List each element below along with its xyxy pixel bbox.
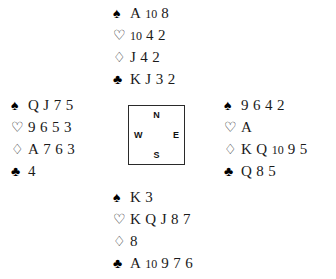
hand-north: ♠ A108 ♡ 1042 ♢ J42 ♣ KJ32 — [113, 2, 176, 90]
club-icon: ♣ — [11, 161, 28, 183]
north-clubs-ranks: KJ32 — [130, 68, 176, 90]
card-rank: 5 — [300, 141, 308, 157]
south-diamonds-ranks: 8 — [130, 230, 138, 252]
card-rank: A — [241, 119, 252, 135]
north-hearts-row: ♡ 1042 — [113, 24, 176, 46]
compass-box: N W E S — [128, 105, 185, 165]
east-spades-ranks: 9642 — [241, 94, 285, 116]
hand-south: ♠ K3 ♡ KQJ87 ♢ 8 ♣ A10976 — [113, 186, 193, 274]
card-rank: 10 — [130, 29, 142, 43]
east-spades-row: ♠ 9642 — [224, 94, 308, 116]
heart-icon: ♡ — [224, 117, 241, 139]
compass-east-label: E — [173, 130, 179, 140]
east-hearts-ranks: A — [241, 116, 252, 138]
spade-icon: ♠ — [113, 187, 130, 209]
card-rank: 2 — [152, 49, 160, 65]
south-spades-row: ♠ K3 — [113, 186, 193, 208]
east-diamonds-ranks: KQ1095 — [241, 138, 308, 161]
south-clubs-row: ♣ A10976 — [113, 252, 193, 274]
card-rank: J — [43, 97, 49, 113]
card-rank: J — [161, 211, 167, 227]
north-spades-ranks: A108 — [130, 2, 169, 25]
diamond-icon: ♢ — [113, 47, 130, 69]
card-rank: 5 — [52, 119, 60, 135]
card-rank: 8 — [256, 163, 264, 179]
south-diamonds-row: ♢ 8 — [113, 230, 193, 252]
west-spades-row: ♠ QJ75 — [11, 94, 75, 116]
south-hearts-ranks: KQJ87 — [130, 208, 191, 230]
west-hearts-row: ♡ 9653 — [11, 116, 75, 138]
card-rank: K — [130, 189, 141, 205]
card-rank: 6 — [55, 141, 63, 157]
card-rank: 3 — [64, 119, 72, 135]
west-clubs-row: ♣ 4 — [11, 160, 75, 182]
diamond-icon: ♢ — [11, 139, 28, 161]
west-diamonds-ranks: A763 — [28, 138, 75, 160]
hand-west: ♠ QJ75 ♡ 9653 ♢ A763 ♣ 4 — [11, 94, 75, 182]
card-rank: 3 — [67, 141, 75, 157]
north-clubs-row: ♣ KJ32 — [113, 68, 176, 90]
card-rank: 9 — [161, 255, 169, 271]
card-rank: 7 — [173, 255, 181, 271]
south-hearts-row: ♡ KQJ87 — [113, 208, 193, 230]
card-rank: 7 — [54, 97, 62, 113]
card-rank: 7 — [43, 141, 51, 157]
card-rank: Q — [145, 211, 156, 227]
card-rank: Q — [28, 97, 39, 113]
west-hearts-ranks: 9653 — [28, 116, 72, 138]
card-rank: A — [130, 5, 141, 21]
card-rank: Q — [256, 141, 267, 157]
card-rank: 4 — [28, 163, 36, 179]
card-rank: 2 — [158, 27, 166, 43]
spade-icon: ♠ — [113, 3, 130, 25]
heart-icon: ♡ — [113, 209, 130, 231]
card-rank: 4 — [140, 49, 148, 65]
card-rank: 5 — [66, 97, 74, 113]
north-diamonds-row: ♢ J42 — [113, 46, 176, 68]
card-rank: 2 — [277, 97, 285, 113]
spade-icon: ♠ — [224, 95, 241, 117]
card-rank: K — [130, 71, 141, 87]
south-clubs-ranks: A10976 — [130, 252, 193, 275]
card-rank: A — [28, 141, 39, 157]
card-rank: 9 — [288, 141, 296, 157]
card-rank: 10 — [145, 257, 157, 271]
west-spades-ranks: QJ75 — [28, 94, 74, 116]
card-rank: 8 — [130, 233, 138, 249]
card-rank: 9 — [28, 119, 36, 135]
card-rank: 8 — [161, 5, 169, 21]
club-icon: ♣ — [113, 69, 130, 91]
east-hearts-row: ♡ A — [224, 116, 308, 138]
card-rank: 3 — [145, 189, 153, 205]
club-icon: ♣ — [224, 161, 241, 183]
card-rank: Q — [241, 163, 252, 179]
card-rank: 6 — [253, 97, 261, 113]
card-rank: 3 — [156, 71, 164, 87]
heart-icon: ♡ — [11, 117, 28, 139]
south-spades-ranks: K3 — [130, 186, 153, 208]
card-rank: K — [130, 211, 141, 227]
east-diamonds-row: ♢ KQ1095 — [224, 138, 308, 160]
north-spades-row: ♠ A108 — [113, 2, 176, 24]
card-rank: 10 — [272, 143, 284, 157]
east-clubs-ranks: Q85 — [241, 160, 276, 182]
hand-east: ♠ 9642 ♡ A ♢ KQ1095 ♣ Q85 — [224, 94, 308, 182]
card-rank: A — [130, 255, 141, 271]
diamond-icon: ♢ — [224, 139, 241, 161]
diamond-icon: ♢ — [113, 231, 130, 253]
west-clubs-ranks: 4 — [28, 160, 36, 182]
card-rank: 7 — [183, 211, 191, 227]
compass-south-label: S — [153, 150, 159, 160]
north-hearts-ranks: 1042 — [130, 24, 166, 47]
card-rank: 2 — [168, 71, 176, 87]
bridge-deal-diagram: ♠ A108 ♡ 1042 ♢ J42 ♣ KJ32 ♠ QJ75 ♡ 9653… — [0, 0, 336, 279]
compass-north-label: N — [153, 110, 160, 120]
club-icon: ♣ — [113, 253, 130, 275]
heart-icon: ♡ — [113, 25, 130, 47]
west-diamonds-row: ♢ A763 — [11, 138, 75, 160]
spade-icon: ♠ — [11, 95, 28, 117]
east-clubs-row: ♣ Q85 — [224, 160, 308, 182]
card-rank: 6 — [40, 119, 48, 135]
card-rank: 4 — [146, 27, 154, 43]
card-rank: 5 — [268, 163, 276, 179]
